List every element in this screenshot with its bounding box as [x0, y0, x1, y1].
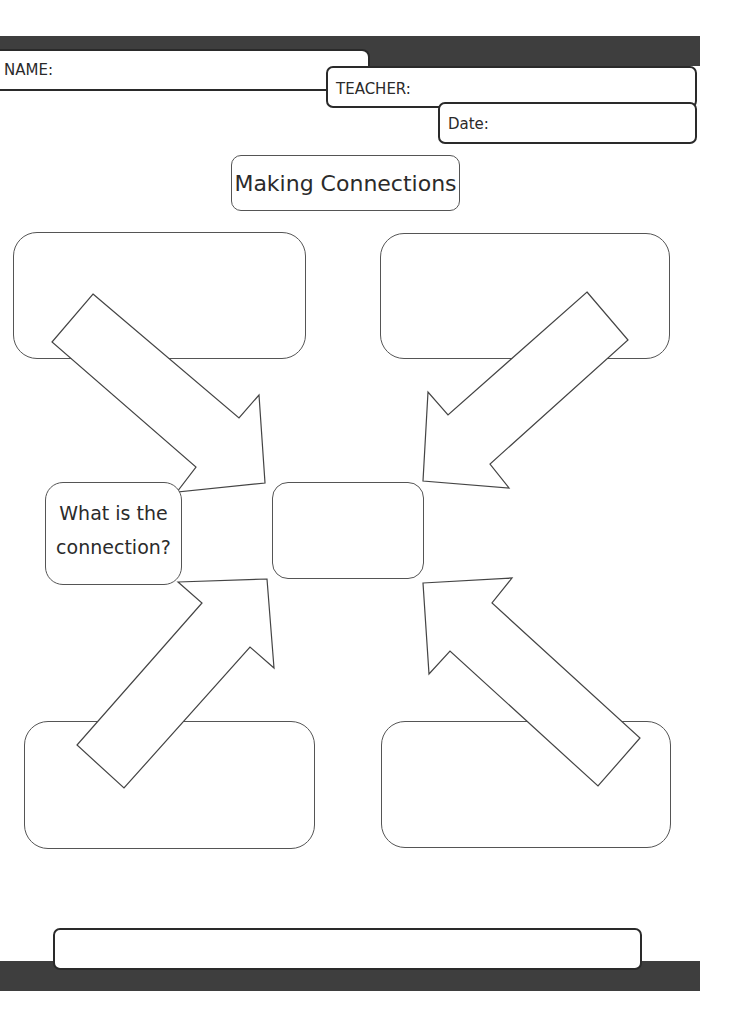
arrow-top-left-icon: [52, 294, 265, 492]
question-line-2: connection?: [56, 530, 171, 564]
footer-answer-box[interactable]: [53, 928, 642, 970]
arrow-bottom-left-icon: [77, 579, 274, 788]
question-line-1: What is the: [56, 496, 171, 530]
arrow-bottom-right-icon: [423, 578, 640, 786]
question-box: What is the connection?: [45, 482, 182, 585]
arrow-top-right-icon: [423, 292, 628, 488]
center-box[interactable]: [272, 482, 424, 579]
